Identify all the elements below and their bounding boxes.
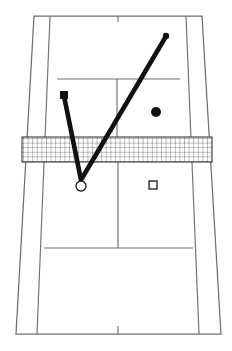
marker-filled-square [60, 91, 68, 99]
right-singles-sideline [186, 16, 199, 334]
tennis-court-diagram [0, 0, 232, 351]
court-outline-group [16, 16, 221, 334]
tennis-net [22, 137, 212, 162]
court-diagram-canvas [0, 0, 232, 351]
marker-filled-circle [151, 107, 161, 117]
left-singles-sideline [37, 16, 50, 334]
net-group [22, 137, 212, 162]
marker-open-square [149, 181, 157, 189]
marker-trajectory-dot [163, 33, 169, 39]
marker-open-circle [76, 181, 86, 191]
